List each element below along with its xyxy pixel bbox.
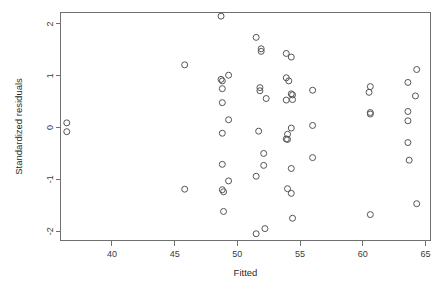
data-point [405, 118, 411, 124]
data-point [219, 78, 225, 84]
plot-canvas: 404550556065Fitted210-1-2Standardized re… [0, 0, 445, 288]
y-axis: 210-1-2Standardized residuals [13, 21, 61, 235]
data-point [261, 162, 267, 168]
data-point [221, 189, 227, 195]
x-tick-label: 55 [295, 249, 305, 259]
x-tick-label: 65 [420, 249, 430, 259]
data-point [290, 215, 296, 221]
y-tick-label: -1 [46, 175, 56, 183]
residuals-vs-fitted-plot: 404550556065Fitted210-1-2Standardized re… [0, 0, 445, 288]
data-point [219, 161, 225, 167]
data-point [414, 67, 420, 73]
y-tick-label: 1 [46, 73, 56, 78]
data-point [253, 173, 259, 179]
data-point [405, 108, 411, 114]
data-point [182, 62, 188, 68]
data-point [367, 212, 373, 218]
data-point [406, 157, 412, 163]
data-point [262, 226, 268, 232]
data-point [253, 34, 259, 40]
x-tick-label: 45 [170, 249, 180, 259]
data-point [226, 117, 232, 123]
data-point [219, 130, 225, 136]
plot-frame [61, 13, 431, 241]
x-tick-label: 40 [107, 249, 117, 259]
data-point [283, 97, 289, 103]
data-point [219, 100, 225, 106]
x-axis-title: Fitted [234, 267, 258, 278]
y-tick-label: 2 [46, 21, 56, 26]
data-point [256, 128, 262, 134]
data-point [288, 190, 294, 196]
data-point [219, 86, 225, 92]
x-axis: 404550556065Fitted [107, 241, 431, 278]
data-point [226, 72, 232, 78]
data-point [64, 129, 70, 135]
data-point [263, 96, 269, 102]
data-point [405, 140, 411, 146]
data-point [288, 125, 294, 131]
scatter-plot-screenshot: 404550556065Fitted210-1-2Standardized re… [0, 0, 445, 288]
data-point [405, 79, 411, 85]
data-point [218, 13, 224, 19]
data-point [226, 178, 232, 184]
y-axis-title: Standardized residuals [13, 78, 24, 175]
data-point [414, 201, 420, 207]
data-point [310, 87, 316, 93]
data-point [366, 89, 372, 95]
x-tick-label: 60 [358, 249, 368, 259]
data-point [64, 120, 70, 126]
y-tick-label: 0 [46, 125, 56, 130]
data-point [288, 54, 294, 60]
data-point [182, 186, 188, 192]
data-point [253, 231, 259, 237]
data-point [412, 93, 418, 99]
y-tick-label: -2 [46, 227, 56, 235]
x-tick-label: 50 [232, 249, 242, 259]
data-point [367, 84, 373, 90]
data-point [261, 150, 267, 156]
data-point [310, 155, 316, 161]
data-points [64, 13, 420, 237]
data-point [310, 122, 316, 128]
data-point [288, 165, 294, 171]
data-point [221, 208, 227, 214]
